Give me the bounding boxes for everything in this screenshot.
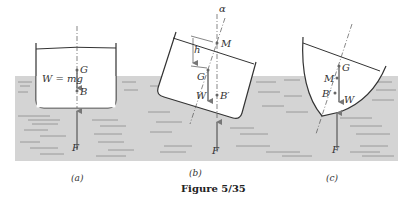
label-B-prime: B′: [219, 90, 230, 101]
label-M: M: [323, 73, 335, 84]
label-M: M: [220, 38, 232, 49]
label-G: G: [197, 71, 205, 82]
label-F: F: [211, 145, 220, 156]
caption-b: (b): [189, 168, 202, 178]
caption-a: (a): [71, 173, 84, 183]
label-F: F: [71, 142, 80, 153]
label-G: G: [80, 64, 88, 75]
panel-b: α M h G W B′ F (b) Figure 5/35: [158, 3, 256, 194]
label-F: F: [331, 144, 340, 155]
weight-label: W = mg: [42, 73, 83, 84]
label-W: W: [344, 94, 355, 105]
label-W: W: [196, 90, 207, 101]
label-B: B: [79, 86, 87, 97]
caption-c: (c): [326, 173, 339, 183]
buoyancy-stability-diagram: W = mg G B F (a) α M h G W B′ F (b) Figu…: [0, 0, 411, 198]
label-G: G: [342, 62, 350, 73]
label-B-prime: B′: [321, 88, 332, 99]
label-alpha: α: [219, 3, 226, 14]
figure-caption: Figure 5/35: [181, 183, 246, 194]
label-h: h: [194, 44, 200, 55]
